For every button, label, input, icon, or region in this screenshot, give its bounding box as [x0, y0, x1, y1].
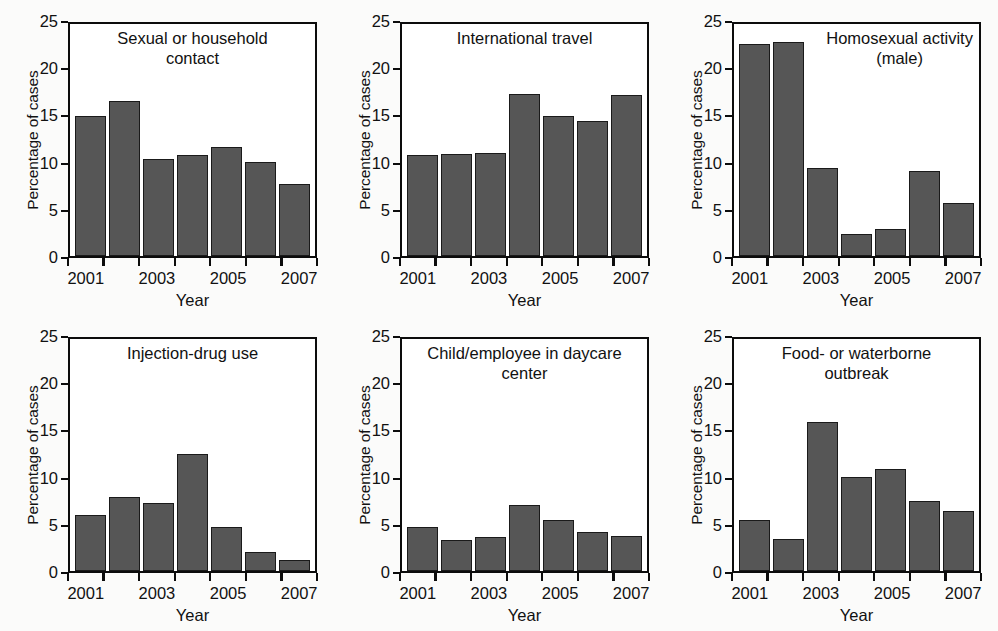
x-axis-title: Year: [732, 291, 981, 310]
y-tick-label: 15: [356, 422, 390, 438]
y-tick-label: 25: [24, 13, 58, 29]
x-tick-label: 2005: [874, 268, 911, 288]
x-tick-mark: [648, 258, 650, 266]
x-tick-mark: [399, 573, 401, 581]
x-tick-mark: [209, 573, 211, 581]
y-tick-label: 0: [24, 249, 58, 265]
six-panel-bar-chart-figure: Percentage of cases0510152025Sexual or h…: [0, 0, 998, 631]
x-tick-marks: [732, 258, 981, 266]
x-tick-mark: [102, 573, 104, 581]
y-tick-label: 0: [688, 249, 722, 265]
y-axis-title: Percentage of cases: [356, 337, 378, 573]
bar: [875, 229, 906, 256]
x-tick-label: 2003: [139, 583, 176, 603]
x-tick-mark: [316, 258, 318, 266]
y-tick-label: 20: [356, 375, 390, 391]
y-tick-mark: [61, 68, 68, 70]
x-tick-mark: [838, 573, 840, 581]
x-tick-mark: [541, 573, 543, 581]
panel-injection-drug-use: Percentage of cases0510152025Injection-d…: [0, 315, 332, 631]
x-tick-label: 2005: [210, 268, 247, 288]
bar: [407, 527, 438, 571]
y-tick-label: 5: [24, 202, 58, 218]
x-tick-label: 2003: [471, 583, 508, 603]
x-tick-label: 2001: [67, 268, 104, 288]
bar-series: [734, 24, 979, 256]
y-tick-mark: [393, 430, 400, 432]
x-tick-mark: [280, 258, 282, 266]
x-tick-labels: 2001200320052007: [732, 583, 981, 603]
y-tick-mark: [393, 525, 400, 527]
y-tick-mark: [61, 115, 68, 117]
y-tick-mark: [61, 163, 68, 165]
x-tick-label: 2001: [731, 583, 768, 603]
x-tick-mark: [612, 258, 614, 266]
y-tick-label: 25: [24, 328, 58, 344]
y-tick-label: 10: [356, 155, 390, 171]
y-tick-mark: [61, 21, 68, 23]
x-tick-label: 2007: [281, 268, 318, 288]
x-tick-mark: [944, 573, 946, 581]
bar: [441, 154, 472, 256]
y-tick-label: 5: [688, 202, 722, 218]
x-tick-mark: [67, 573, 69, 581]
x-tick-mark: [174, 573, 176, 581]
y-tick-label: 15: [24, 422, 58, 438]
bar: [577, 532, 608, 571]
plot-area: Injection-drug use: [68, 337, 317, 573]
bar: [211, 147, 242, 256]
x-tick-mark: [980, 573, 982, 581]
y-tick-mark: [393, 68, 400, 70]
x-tick-label: 2005: [874, 583, 911, 603]
panel-homosexual-activity-male: Percentage of cases0510152025Homosexual …: [664, 0, 998, 315]
y-tick-label: 15: [356, 107, 390, 123]
plot-area: Food- or waterborne outbreak: [732, 337, 981, 573]
panel-child-employee-in-daycare-center: Percentage of cases0510152025Child/emplo…: [332, 315, 664, 631]
y-tick-label: 0: [688, 564, 722, 580]
x-tick-mark: [470, 258, 472, 266]
bar: [909, 171, 940, 256]
y-tick-mark: [393, 383, 400, 385]
x-tick-mark: [280, 573, 282, 581]
bar: [773, 539, 804, 571]
x-tick-label: 2001: [399, 583, 436, 603]
y-tick-mark: [725, 68, 732, 70]
panel-grid: Percentage of cases0510152025Sexual or h…: [0, 0, 998, 631]
x-tick-mark: [67, 258, 69, 266]
bar: [807, 168, 838, 256]
bar: [841, 234, 872, 256]
x-tick-labels: 2001200320052007: [400, 583, 649, 603]
x-tick-label: 2005: [542, 268, 579, 288]
x-tick-label: 2001: [399, 268, 436, 288]
y-tick-label: 10: [24, 155, 58, 171]
y-tick-mark: [725, 430, 732, 432]
plot-area: Sexual or household contact: [68, 22, 317, 258]
y-tick-label: 20: [688, 375, 722, 391]
bar: [943, 511, 974, 571]
y-tick-mark: [725, 210, 732, 212]
x-tick-mark: [245, 573, 247, 581]
x-tick-labels: 2001200320052007: [400, 268, 649, 288]
plot-area: Child/employee in daycare center: [400, 337, 649, 573]
x-tick-mark: [245, 258, 247, 266]
bar: [279, 560, 310, 571]
bar: [475, 537, 506, 571]
y-tick-label: 5: [688, 517, 722, 533]
y-tick-label: 5: [356, 202, 390, 218]
y-tick-mark: [61, 383, 68, 385]
y-tick-mark: [393, 336, 400, 338]
y-axis-title: Percentage of cases: [356, 22, 378, 258]
x-tick-marks: [68, 258, 317, 266]
x-tick-label: 2003: [471, 268, 508, 288]
x-tick-mark: [138, 573, 140, 581]
x-tick-mark: [909, 258, 911, 266]
x-tick-mark: [470, 573, 472, 581]
y-axis-title: Percentage of cases: [688, 22, 710, 258]
x-tick-mark: [802, 573, 804, 581]
bar: [75, 116, 106, 256]
y-tick-mark: [725, 163, 732, 165]
bar: [245, 162, 276, 256]
y-axis-title: Percentage of cases: [688, 337, 710, 573]
x-tick-marks: [68, 573, 317, 581]
x-tick-label: 2007: [613, 268, 650, 288]
